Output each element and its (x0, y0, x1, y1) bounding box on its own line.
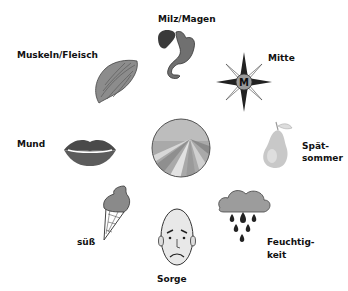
muscle-icon (91, 57, 141, 105)
compass-rose-icon: M (214, 50, 274, 114)
svg-text:M: M (239, 77, 249, 88)
worried-face-icon (158, 205, 196, 271)
lips-icon (62, 136, 118, 166)
label-sorge: Sorge (157, 274, 187, 285)
spleen-stomach-icon (156, 28, 204, 80)
label-feuchtigkeit-1: Feuchtig- (267, 237, 315, 248)
ice-cream-cone-icon (100, 184, 134, 242)
label-spaetsommer-2: sommer (302, 153, 343, 164)
label-spaetsommer-1: Spät- (302, 141, 329, 152)
rain-cloud-icon (216, 186, 272, 244)
pear-icon (256, 118, 296, 170)
label-milz-magen: Milz/Magen (158, 14, 216, 25)
label-muskeln-fleisch: Muskeln/Fleisch (17, 50, 98, 61)
label-mund: Mund (17, 139, 45, 150)
label-suess: süß (77, 237, 95, 248)
field-landscape-icon (150, 117, 212, 179)
label-feuchtigkeit-2: keit (267, 250, 286, 261)
